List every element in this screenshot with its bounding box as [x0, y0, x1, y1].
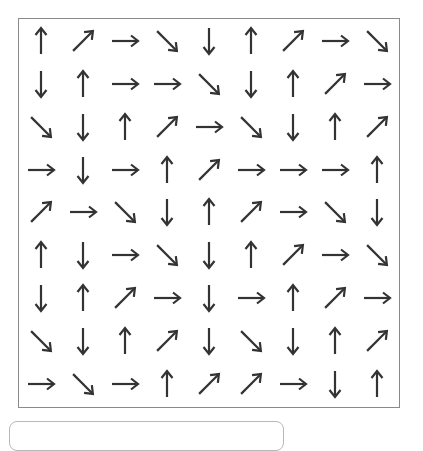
- arrow-down-icon: [66, 238, 100, 272]
- grid-cell: [230, 63, 272, 106]
- arrow-down-right-icon: [192, 67, 226, 101]
- grid-cell: [20, 319, 62, 362]
- grid-cell: [188, 148, 230, 191]
- grid-cell: [272, 106, 314, 149]
- grid-cell: [146, 106, 188, 149]
- grid-cell: [188, 277, 230, 320]
- arrow-right-icon: [318, 238, 352, 272]
- arrow-up-icon: [150, 367, 184, 401]
- grid-cell: [314, 106, 356, 149]
- arrow-right-icon: [108, 367, 142, 401]
- grid-cell: [146, 191, 188, 234]
- grid-cell: [356, 277, 398, 320]
- arrow-down-right-icon: [360, 24, 394, 58]
- arrow-down-icon: [234, 67, 268, 101]
- arrow-up-right-icon: [360, 324, 394, 358]
- arrow-up-icon: [150, 153, 184, 187]
- arrow-down-icon: [276, 324, 310, 358]
- grid-cell: [62, 106, 104, 149]
- grid-cell: [188, 362, 230, 405]
- grid-cell: [62, 277, 104, 320]
- grid-cell: [20, 20, 62, 63]
- grid-cell: [314, 191, 356, 234]
- arrow-down-icon: [192, 24, 226, 58]
- arrow-up-right-icon: [24, 195, 58, 229]
- grid-cell: [62, 63, 104, 106]
- grid-cell: [20, 148, 62, 191]
- arrow-up-icon: [192, 195, 226, 229]
- grid-cell: [272, 319, 314, 362]
- arrow-right-icon: [276, 153, 310, 187]
- arrow-grid-frame: [18, 18, 400, 408]
- arrow-up-right-icon: [276, 24, 310, 58]
- arrow-down-right-icon: [24, 110, 58, 144]
- grid-cell: [104, 148, 146, 191]
- arrow-right-icon: [108, 67, 142, 101]
- arrow-up-right-icon: [192, 153, 226, 187]
- grid-cell: [146, 277, 188, 320]
- arrow-up-icon: [108, 324, 142, 358]
- grid-cell: [146, 362, 188, 405]
- arrow-right-icon: [276, 195, 310, 229]
- arrow-down-icon: [150, 195, 184, 229]
- grid-cell: [272, 63, 314, 106]
- arrow-right-icon: [318, 153, 352, 187]
- arrow-down-icon: [192, 238, 226, 272]
- grid-cell: [356, 63, 398, 106]
- grid-cell: [62, 20, 104, 63]
- grid-cell: [20, 234, 62, 277]
- grid-cell: [272, 362, 314, 405]
- grid-cell: [230, 362, 272, 405]
- arrow-up-icon: [234, 238, 268, 272]
- grid-cell: [314, 63, 356, 106]
- arrow-down-right-icon: [150, 238, 184, 272]
- grid-cell: [146, 63, 188, 106]
- arrow-up-right-icon: [150, 110, 184, 144]
- arrow-down-right-icon: [66, 367, 100, 401]
- grid-cell: [272, 234, 314, 277]
- arrow-up-icon: [66, 67, 100, 101]
- arrow-up-icon: [276, 281, 310, 315]
- arrow-up-icon: [360, 367, 394, 401]
- arrow-up-right-icon: [66, 24, 100, 58]
- arrow-up-right-icon: [318, 281, 352, 315]
- arrow-right-icon: [108, 238, 142, 272]
- grid-cell: [62, 234, 104, 277]
- arrow-up-right-icon: [234, 195, 268, 229]
- arrow-down-icon: [24, 281, 58, 315]
- grid-cell: [104, 234, 146, 277]
- arrow-down-icon: [66, 153, 100, 187]
- arrow-right-icon: [150, 281, 184, 315]
- arrow-down-icon: [192, 281, 226, 315]
- grid-cell: [20, 277, 62, 320]
- grid-cell: [230, 20, 272, 63]
- grid-cell: [188, 106, 230, 149]
- grid-cell: [104, 20, 146, 63]
- grid-cell: [314, 319, 356, 362]
- arrow-down-right-icon: [24, 324, 58, 358]
- grid-cell: [104, 319, 146, 362]
- arrow-up-icon: [24, 24, 58, 58]
- grid-cell: [230, 148, 272, 191]
- grid-cell: [314, 20, 356, 63]
- arrow-up-right-icon: [108, 281, 142, 315]
- answer-input[interactable]: [9, 421, 284, 451]
- grid-cell: [104, 362, 146, 405]
- grid-cell: [104, 277, 146, 320]
- grid-cell: [314, 277, 356, 320]
- arrow-up-right-icon: [150, 324, 184, 358]
- arrow-right-icon: [192, 110, 226, 144]
- grid-cell: [188, 191, 230, 234]
- arrow-right-icon: [24, 153, 58, 187]
- grid-cell: [20, 362, 62, 405]
- arrow-up-right-icon: [192, 367, 226, 401]
- grid-cell: [314, 362, 356, 405]
- arrow-down-icon: [24, 67, 58, 101]
- grid-cell: [230, 277, 272, 320]
- arrow-down-icon: [360, 195, 394, 229]
- arrow-down-right-icon: [234, 324, 268, 358]
- arrow-up-icon: [318, 324, 352, 358]
- grid-cell: [272, 191, 314, 234]
- grid-cell: [272, 148, 314, 191]
- grid-cell: [146, 234, 188, 277]
